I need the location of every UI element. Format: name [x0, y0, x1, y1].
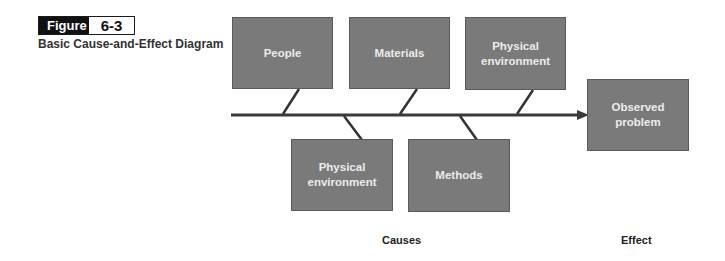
cause-box-physical-environment-top: Physical environment [465, 17, 566, 90]
effect-box-observed-problem: Observed problem [587, 79, 689, 151]
cause-box-physical-environment-bottom: Physical environment [291, 139, 393, 211]
effect-label: Effect [621, 234, 652, 246]
bone-physical-bottom [344, 116, 362, 140]
cause-box-methods: Methods [408, 139, 510, 212]
causes-label: Causes [382, 234, 421, 246]
cause-box-people: People [232, 17, 333, 89]
cause-box-materials: Materials [349, 17, 450, 89]
bone-methods [460, 116, 477, 140]
bone-materials [400, 89, 417, 114]
bone-people [283, 89, 299, 114]
bone-physical-top [517, 90, 533, 114]
